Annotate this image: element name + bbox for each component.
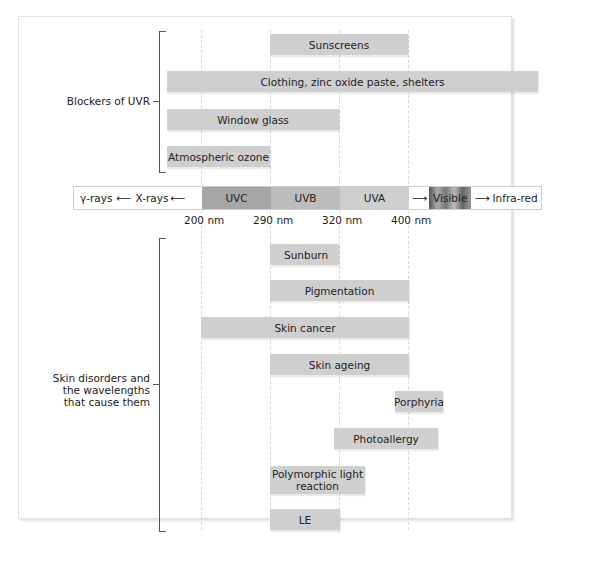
uvb-segment: UVB [271,187,340,209]
disorders-label-line: Skin disorders and [50,372,150,384]
disorders-tick [153,384,159,385]
bar-porphyria: Porphyria [395,391,443,412]
arrow-right-icon: ⟶ [474,192,489,204]
xray-side: γ-rays ⟵ X-rays ⟵ [80,187,185,209]
disorders-label-line: the wavelengths [50,384,150,396]
arrow-right-icon: ⟶ [412,192,427,204]
arrow-left-icon: ⟵ [116,192,131,204]
tick-320nm: 320 nm [322,214,362,226]
bar-photoallergy: Photoallergy [334,428,438,449]
disorders-label: Skin disorders and the wavelengths that … [50,372,150,408]
blockers-bracket [159,31,166,173]
tick-400nm: 400 nm [391,214,431,226]
disorders-label-line: that cause them [50,396,150,408]
bar-atmospheric-ozone: Atmospheric ozone [167,146,270,167]
bar-window-glass: Window glass [167,109,339,130]
uvc-segment: UVC [202,187,271,209]
bar-pigmentation: Pigmentation [270,280,409,301]
bar-le: LE [270,509,340,530]
bar-sunscreens: Sunscreens [270,34,408,55]
bar-polymorphic-light-reaction: Polymorphic light reaction [270,466,365,494]
gamma-rays-label: γ-rays [80,192,112,204]
visible-side: ⟶ Visible ⟶ Infra-red [412,187,538,209]
visible-segment: Visible [429,187,471,209]
blockers-tick [153,101,159,102]
x-rays-label: X-rays [136,192,169,204]
spectrum-strip: γ-rays ⟵ X-rays ⟵ UVC UVB UVA ⟶ Visible … [73,186,542,210]
uva-segment: UVA [340,187,409,209]
infra-red-label: Infra-red [492,192,537,204]
guide-200nm [201,30,202,530]
bar-skin-cancer: Skin cancer [201,317,409,338]
bar-sunburn: Sunburn [270,244,339,265]
arrow-left-icon: ⟵ [170,192,185,204]
bar-clothing: Clothing, zinc oxide paste, shelters [167,71,538,92]
disorders-bracket [159,238,166,532]
bar-skin-ageing: Skin ageing [270,354,409,375]
blockers-label: Blockers of UVR [60,95,150,107]
tick-200nm: 200 nm [184,214,224,226]
tick-290nm: 290 nm [253,214,293,226]
